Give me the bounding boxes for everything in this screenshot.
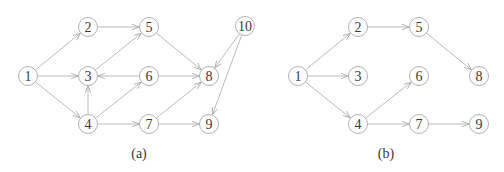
- edge-1-to-2: [305, 33, 350, 70]
- node-label: 7: [146, 117, 153, 132]
- node-6: 6: [140, 67, 159, 86]
- node-label: 3: [85, 69, 92, 84]
- node-label: 2: [355, 20, 362, 35]
- edge-1-to-4: [305, 82, 350, 118]
- node-9: 9: [470, 115, 489, 134]
- graph-a: 12345678910 (a): [19, 17, 255, 162]
- node-label: 9: [206, 117, 213, 132]
- graph-b-edges: [305, 27, 471, 124]
- edge-1-to-4: [35, 82, 80, 118]
- node-label: 7: [416, 117, 423, 132]
- node-1: 1: [289, 67, 308, 86]
- node-label: 6: [146, 69, 153, 84]
- node-5: 5: [410, 18, 429, 37]
- edge-5-to-8: [156, 33, 201, 70]
- graph-b: 123456789 (b): [289, 18, 489, 162]
- node-label: 3: [355, 69, 362, 84]
- node-label: 9: [476, 117, 483, 132]
- graph-a-nodes: 12345678910: [19, 17, 255, 134]
- node-label: 10: [238, 19, 252, 34]
- node-7: 7: [140, 115, 159, 134]
- node-label: 5: [416, 20, 423, 35]
- edge-5-to-8: [426, 33, 471, 70]
- node-8: 8: [470, 67, 489, 86]
- node-label: 4: [85, 117, 92, 132]
- node-8: 8: [200, 67, 219, 86]
- node-1: 1: [19, 67, 38, 86]
- edge-4-to-6: [95, 82, 141, 118]
- node-9: 9: [200, 115, 219, 134]
- edge-4-to-6: [365, 82, 411, 118]
- node-label: 5: [146, 20, 153, 35]
- node-7: 7: [410, 115, 429, 134]
- node-2: 2: [79, 18, 98, 37]
- graph-diagram: 12345678910 (a) 123456789 (b): [0, 0, 504, 172]
- edge-7-to-8: [156, 82, 201, 118]
- node-label: 4: [355, 117, 362, 132]
- node-4: 4: [349, 115, 368, 134]
- node-label: 6: [416, 69, 423, 84]
- node-3: 3: [79, 67, 98, 86]
- edge-1-to-2: [35, 33, 80, 70]
- node-label: 2: [85, 20, 92, 35]
- graph-b-caption: (b): [378, 146, 395, 162]
- node-label: 1: [295, 69, 302, 84]
- node-5: 5: [140, 18, 159, 37]
- graph-b-nodes: 123456789: [289, 18, 489, 134]
- node-4: 4: [79, 115, 98, 134]
- node-label: 8: [206, 69, 213, 84]
- edge-3-to-5: [95, 33, 141, 70]
- graph-a-caption: (a): [131, 146, 147, 162]
- node-2: 2: [349, 18, 368, 37]
- node-10: 10: [236, 17, 255, 36]
- node-label: 1: [25, 69, 32, 84]
- node-3: 3: [349, 67, 368, 86]
- node-6: 6: [410, 67, 429, 86]
- node-label: 8: [476, 69, 483, 84]
